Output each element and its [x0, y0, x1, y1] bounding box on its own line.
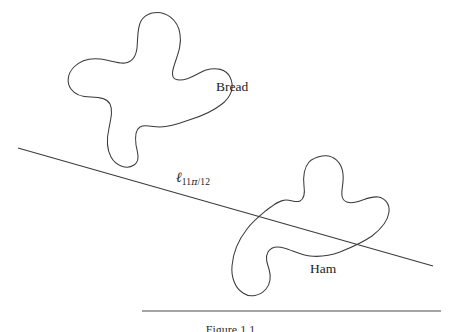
- figure-canvas: [0, 0, 461, 332]
- ell-subscript-numerator: 11: [182, 177, 191, 187]
- cut-line: [18, 148, 433, 266]
- ham-label: Ham: [310, 262, 336, 276]
- figure-container: Bread Ham ℓ11π/12 Figure 1.1: [0, 0, 461, 332]
- ell-subscript: 11π/12: [182, 177, 210, 187]
- bread-label: Bread: [216, 80, 248, 94]
- cut-line-label: ℓ11π/12: [176, 171, 210, 187]
- figure-caption: Figure 1.1: [0, 323, 461, 332]
- bread-blob-shape: [68, 12, 232, 167]
- ell-subscript-denominator: 12: [200, 177, 210, 187]
